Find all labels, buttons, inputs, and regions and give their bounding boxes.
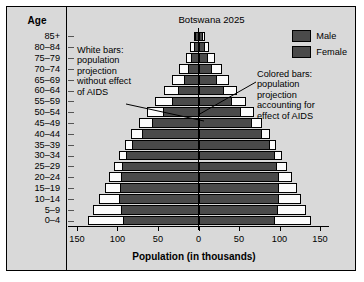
legend-item-male: Male [292,30,347,42]
y-tick [68,199,74,200]
age-tick-label: 30–34 [34,150,60,160]
bar-female-with-aids [199,172,279,182]
x-tick-label: 50 [153,234,163,244]
age-tick-label: 45–49 [34,118,60,128]
bar-male-with-aids [152,118,198,128]
y-tick [68,166,74,167]
y-tick [68,58,74,59]
y-tick [68,221,74,222]
legend-label: Female [316,47,347,57]
bar-male-with-aids [132,140,198,150]
y-tick [68,91,74,92]
age-tick-label: 85+ [44,31,60,41]
bar-female-with-aids [199,151,275,161]
legend-swatch [292,46,311,58]
bar-male-with-aids [121,172,199,182]
age-tick-label: 55–59 [34,96,60,106]
x-tick [199,226,200,231]
annotation-colored-bars: Colored bars: population projection acco… [257,69,353,121]
bar-female-with-aids [199,75,218,85]
chart-title: Botswana 2025 [68,14,355,25]
age-tick-label: 75–79 [34,53,60,63]
x-tick [117,226,118,231]
age-tick-label: 0–4 [45,215,60,225]
x-tick [239,226,240,231]
x-tick [280,226,281,231]
age-tick-label: 20–24 [34,172,60,182]
bar-female-with-aids [199,205,278,215]
bar-female-with-aids [199,97,232,107]
age-tick-label: 25–29 [34,161,60,171]
y-tick [68,134,74,135]
x-tick [158,226,159,231]
bar-female-with-aids [199,183,280,193]
bar-female-with-aids [199,162,278,172]
bar-female-with-aids [199,216,276,226]
bar-female-with-aids [199,42,205,52]
bar-female-with-aids [199,86,224,96]
age-tick-label: 40–44 [34,129,60,139]
x-tick-label: 50 [234,234,244,244]
bar-male-with-aids [123,216,198,226]
y-tick [68,47,74,48]
y-tick [68,156,74,157]
x-tick [320,226,321,231]
age-tick-label: 5–9 [45,205,60,215]
bar-female-with-aids [199,53,209,63]
y-tick [68,69,74,70]
legend-label: Male [316,31,336,41]
y-tick [68,210,74,211]
y-tick [68,112,74,113]
bar-male-with-aids [121,205,199,215]
bar-male-with-aids [163,107,199,117]
y-tick [68,36,74,37]
y-tick [68,80,74,81]
x-tick-label: 0 [196,234,201,244]
bar-male-with-aids [178,86,198,96]
age-tick-label: 15–19 [34,183,60,193]
y-tick [68,101,74,102]
y-tick [68,145,74,146]
bar-male-with-aids [142,129,199,139]
x-tick-label: 100 [110,234,125,244]
y-tick [68,188,74,189]
population-pyramid-figure: Age 85+80–8475–7970–7465–6960–6455–5950–… [6,6,356,271]
x-tick-label: 100 [272,234,287,244]
age-tick-label: 60–64 [34,85,60,95]
x-axis-title: Population (in thousands) [68,251,320,262]
bar-female-with-aids [199,64,213,74]
legend-swatch [292,30,311,42]
bar-male-with-aids [122,162,198,172]
annotation-white-bars: White bars: population projection withou… [77,45,169,97]
bar-female-with-aids [199,194,280,204]
age-tick-label: 80–84 [34,42,60,52]
age-tick-label: 65–69 [34,75,60,85]
bar-male-with-aids [184,75,199,85]
age-tick-label: 70–74 [34,64,60,74]
x-tick-label: 150 [69,234,84,244]
x-tick [77,226,78,231]
bar-female-with-aids [199,129,262,139]
age-tick-label: 50–54 [34,107,60,117]
age-axis-column: Age 85+80–8475–7970–7465–6960–6455–5950–… [7,7,67,270]
bar-male-with-aids [120,183,199,193]
y-tick [68,123,74,124]
plot-area: Botswana 2025 15010050050100150 Populati… [68,7,355,270]
bar-male-with-aids [119,194,198,204]
age-tick-label: 10–14 [34,194,60,204]
bar-female-with-aids [199,107,242,117]
bar-male-with-aids [126,151,199,161]
bar-female-with-aids [199,118,252,128]
bar-male-with-aids [172,97,199,107]
zero-axis-line [198,28,199,230]
age-tick-label: 35–39 [34,140,60,150]
bar-female-with-aids [199,140,270,150]
legend-item-female: Female [292,46,347,58]
bar-female-with-aids [199,32,203,42]
y-tick [68,177,74,178]
age-axis-title: Age [7,15,67,26]
x-tick-label: 150 [312,234,327,244]
legend: MaleFemale [292,30,347,62]
